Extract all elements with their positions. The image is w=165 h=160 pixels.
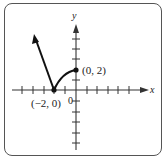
- y-axis: [72, 24, 80, 150]
- graph-plot: y x 0 (−2, 0) (0, 2): [0, 0, 165, 160]
- y-axis-label: y: [71, 10, 77, 21]
- point-b-label: (0, 2): [82, 64, 106, 77]
- y-axis-arrow-icon: [73, 24, 79, 33]
- x-axis-label: x: [149, 84, 155, 95]
- x-axis-arrow-icon: [140, 87, 149, 93]
- function-curve: [32, 34, 79, 93]
- point-0-2: [73, 67, 78, 72]
- point-a-label: (−2, 0): [31, 97, 61, 110]
- origin-label: 0: [68, 95, 73, 106]
- point-neg2-0: [51, 87, 56, 92]
- x-axis: [12, 86, 149, 94]
